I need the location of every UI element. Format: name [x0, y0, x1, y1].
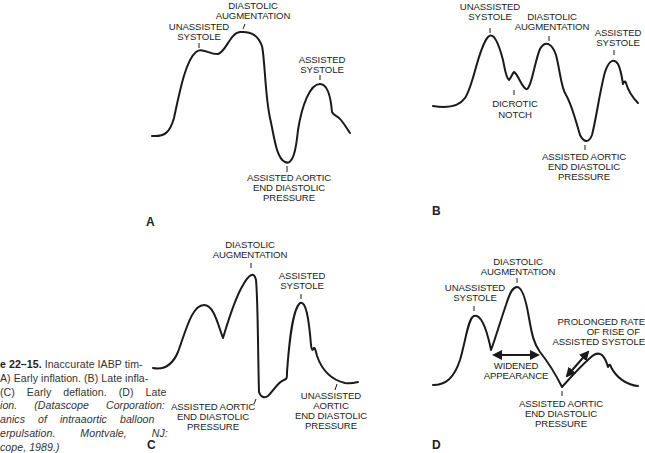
waveform-b	[433, 36, 638, 141]
label-b-aedp: ASSISTED AORTICEND DIASTOLICPRESSURE	[542, 151, 626, 182]
label-d-widened-appearance: WIDENEDAPPEARANCE	[484, 360, 549, 381]
panel-c: DIASTOLICAUGMENTATION ASSISTEDSYSTOLE AS…	[147, 239, 367, 452]
label-a-assisted-systole: ASSISTEDSYSTOLE	[299, 54, 346, 75]
label-a-aedp: ASSISTED AORTICEND DIASTOLICPRESSURE	[247, 172, 331, 203]
label-a-unassisted-systole: UNASSISTEDSYSTOLE	[169, 21, 229, 42]
label-d-aedp: ASSISTED AORTICEND DIASTOLICPRESSURE	[519, 398, 603, 429]
label-d-prolonged-rise: PROLONGED RATEOF RISE OFASSISTED SYSTOLE	[552, 316, 645, 347]
iabp-waveform-diagram: UNASSISTEDSYSTOLE DIASTOLICAUGMENTATION …	[0, 0, 645, 453]
panel-letter-c: C	[147, 438, 156, 452]
label-d-diastolic-aug: DIASTOLICAUGMENTATION	[481, 256, 556, 277]
label-c-aedp: ASSISTED AORTICEND DIASTOLICPRESSURE	[171, 401, 255, 432]
panel-letter-d: D	[432, 438, 441, 452]
label-a-diastolic-aug: DIASTOLICAUGMENTATION	[216, 0, 291, 21]
label-c-assisted-systole: ASSISTEDSYSTOLE	[279, 270, 326, 291]
label-d-unassisted-systole: UNASSISTEDSYSTOLE	[445, 282, 505, 303]
panel-letter-a: A	[146, 215, 155, 229]
waveform-a	[152, 32, 350, 163]
panel-b: UNASSISTEDSYSTOLE DIASTOLICAUGMENTATION …	[432, 1, 641, 218]
waveform-c	[153, 275, 358, 397]
panel-a: UNASSISTEDSYSTOLE DIASTOLICAUGMENTATION …	[146, 0, 350, 229]
label-b-dicrotic-notch: DICROTICNOTCH	[492, 98, 538, 120]
label-c-unassisted-aedp: UNASSISTEDAORTICEND DIASTOLICPRESSURE	[295, 390, 367, 431]
label-b-assisted-systole: ASSISTEDSYSTOLE	[595, 27, 642, 48]
label-c-diastolic-aug: DIASTOLICAUGMENTATION	[213, 239, 288, 260]
panel-letter-b: B	[432, 204, 441, 218]
tick-a-diastolic-aug	[243, 24, 245, 29]
label-b-diastolic-aug: DIASTOLICAUGMENTATION	[515, 11, 590, 32]
panel-d: DIASTOLICAUGMENTATION UNASSISTEDSYSTOLE …	[432, 256, 645, 452]
label-b-unassisted-systole: UNASSISTEDSYSTOLE	[460, 1, 520, 22]
